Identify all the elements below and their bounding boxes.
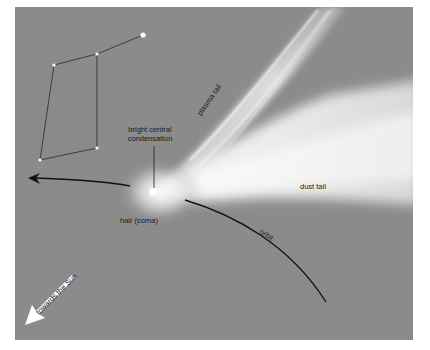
label-condensation-1: bright central (128, 125, 172, 134)
comet-diagram: bright central condensation plasma tail … (0, 0, 430, 350)
star-icon (38, 158, 41, 161)
star-icon (95, 52, 98, 55)
star-icon (95, 146, 98, 149)
label-dust-tail: dust tail (300, 182, 326, 191)
star-icon (140, 32, 145, 37)
coma (118, 160, 202, 224)
star-icon (52, 63, 55, 66)
label-condensation-2: condensation (128, 134, 173, 143)
label-coma: hair (coma) (120, 216, 158, 225)
